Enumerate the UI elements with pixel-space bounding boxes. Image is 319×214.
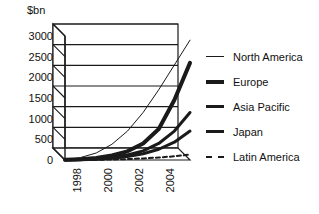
legend-item-label: Asia Pacific bbox=[225, 101, 290, 113]
x-axis-tick-labels: 1998200020022004 bbox=[71, 168, 177, 192]
legend-line-swatch-icon bbox=[205, 105, 225, 108]
svg-text:1000: 1000 bbox=[29, 113, 53, 125]
chart-legend: North AmericaEuropeAsia PacificJapanLati… bbox=[205, 44, 319, 169]
svg-text:2002: 2002 bbox=[133, 168, 145, 192]
svg-text:1998: 1998 bbox=[71, 168, 83, 192]
svg-text:2500: 2500 bbox=[29, 51, 53, 63]
svg-text:1500: 1500 bbox=[29, 92, 53, 104]
svg-text:2000: 2000 bbox=[29, 71, 53, 83]
legend-item-label: Japan bbox=[225, 126, 263, 138]
y-axis-tick-labels: 050010001500200025003000 bbox=[29, 30, 53, 166]
svg-text:0: 0 bbox=[47, 154, 53, 166]
legend-item-label: North America bbox=[225, 51, 303, 63]
legend-line-swatch-icon bbox=[205, 130, 225, 133]
legend-line-swatch-icon bbox=[205, 80, 225, 84]
chart-container: $bn 050010001500200025003000 19982000200… bbox=[0, 0, 319, 214]
svg-text:2000: 2000 bbox=[102, 168, 114, 192]
svg-text:500: 500 bbox=[35, 133, 53, 145]
legend-item[interactable]: Latin America bbox=[205, 144, 319, 169]
legend-item-label: Latin America bbox=[225, 151, 300, 163]
svg-text:2004: 2004 bbox=[164, 168, 176, 192]
legend-item[interactable]: Japan bbox=[205, 119, 319, 144]
legend-item[interactable]: North America bbox=[205, 44, 319, 69]
svg-text:3000: 3000 bbox=[29, 30, 53, 42]
legend-item[interactable]: Asia Pacific bbox=[205, 94, 319, 119]
legend-line-swatch-icon bbox=[205, 56, 225, 57]
legend-item[interactable]: Europe bbox=[205, 69, 319, 94]
legend-item-label: Europe bbox=[225, 76, 268, 88]
legend-line-swatch-icon bbox=[205, 156, 225, 158]
